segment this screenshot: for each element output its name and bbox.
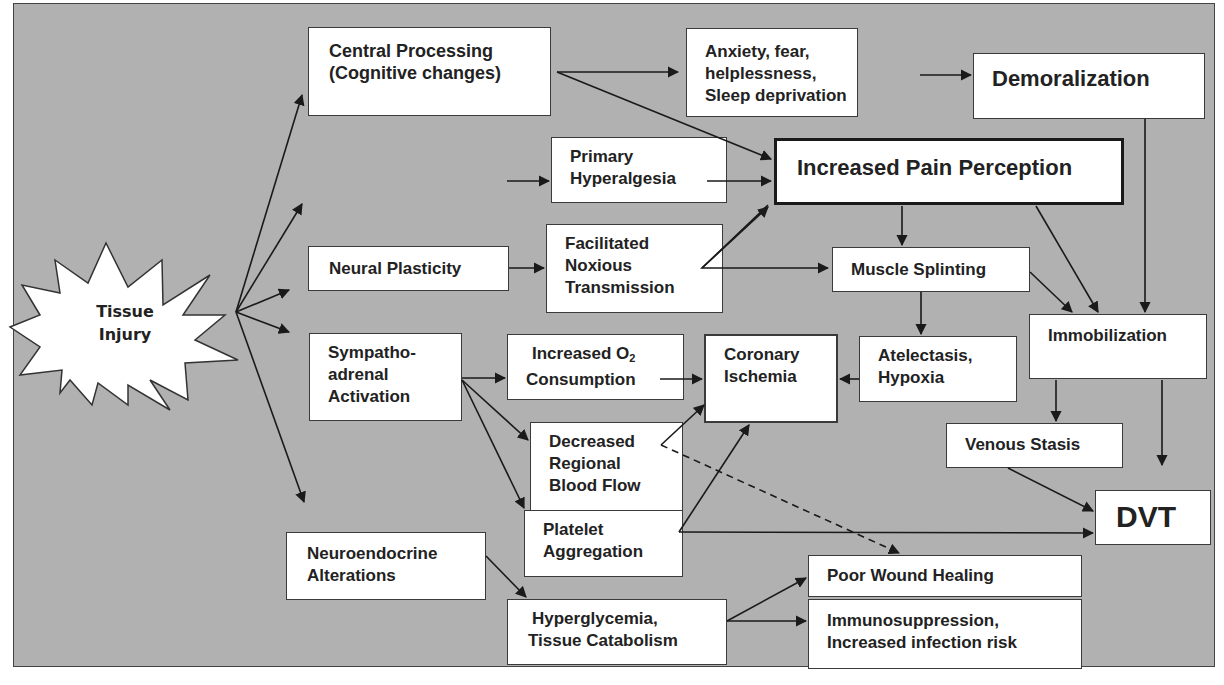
node-platelet-aggregation: Platelet Aggregation	[524, 510, 683, 577]
node-demoralization: Demoralization	[973, 53, 1205, 119]
node-increased-o2: Increased O2 Consumption	[507, 334, 684, 400]
node-neural-plasticity: Neural Plasticity	[308, 246, 509, 291]
node-anxiety: Anxiety, fear, helplessness, Sleep depri…	[686, 28, 858, 117]
node-coronary-ischemia: Coronary Ischemia	[704, 334, 838, 423]
node-poor-wound-healing: Poor Wound Healing	[808, 555, 1082, 597]
node-dvt: DVT	[1095, 490, 1211, 545]
node-atelectasis: Atelectasis, Hypoxia	[859, 336, 1017, 402]
node-primary-hyperalgesia: Primary Hyperalgesia	[551, 137, 727, 203]
node-immunosuppression: Immunosuppression, Increased infection r…	[808, 599, 1082, 669]
node-immobilization: Immobilization	[1029, 314, 1207, 379]
node-muscle-splinting: Muscle Splinting	[832, 247, 1030, 292]
tissue-injury-label: Tissue Injury	[70, 300, 180, 346]
node-central-processing: Central Processing (Cognitive changes)	[308, 27, 551, 116]
node-neuroendocrine: Neuroendocrine Alterations	[286, 532, 486, 600]
node-facilitated-noxious: Facilitated Noxious Transmission	[546, 224, 723, 313]
node-decreased-blood-flow: Decreased Regional Blood Flow	[530, 422, 683, 512]
node-venous-stasis: Venous Stasis	[946, 423, 1123, 468]
node-increased-pain-perception: Increased Pain Perception	[774, 138, 1124, 205]
node-hyperglycemia: Hyperglycemia, Tissue Catabolism	[507, 599, 727, 665]
node-sympathoadrenal: Sympatho- adrenal Activation	[309, 333, 462, 421]
